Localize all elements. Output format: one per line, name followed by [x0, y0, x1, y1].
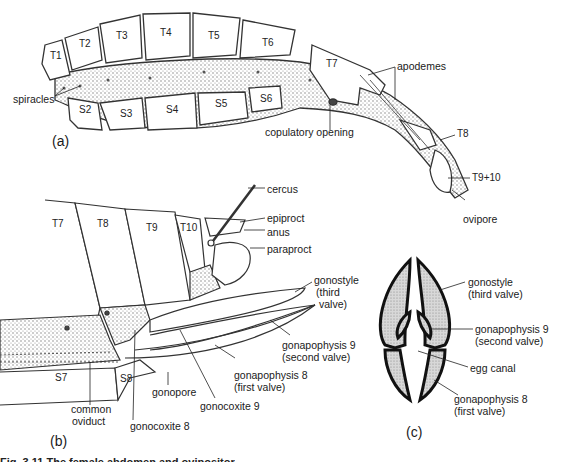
- label-cercus: cercus: [267, 183, 298, 195]
- segment-label-b-S7: S7: [55, 372, 67, 383]
- segment-label-b-T7: T7: [52, 218, 64, 229]
- label-c-gonapophysis8-sub: (first valve): [454, 405, 505, 417]
- label-b-gonapophysis9-sub: (second valve): [282, 351, 350, 363]
- segment-label-b-T8: T8: [97, 218, 109, 229]
- label-c-gonostyle: gonostyle: [468, 276, 513, 288]
- segment-label-T4: T4: [160, 27, 172, 38]
- label-c-gonostyle-sub: (third valve): [468, 288, 523, 300]
- label-spiracles: spiracles: [13, 93, 54, 105]
- segment-label-T2: T2: [79, 38, 91, 49]
- figure-caption: Fig. 3.11 The female abdomen and oviposi…: [0, 452, 235, 462]
- label-common-oviduct-1: common: [71, 403, 111, 415]
- label-c-gonapophysis9-sub: (second valve): [475, 335, 543, 347]
- panel-label-a: (a): [52, 133, 69, 149]
- label-copulatory-opening: copulatory opening: [265, 126, 354, 138]
- segment-label-T3: T3: [116, 30, 128, 41]
- label-b-gonapophysis8-sub: (first valve): [234, 381, 285, 393]
- label-b-gonapophysis9: gonapophysis 9: [282, 339, 356, 351]
- label-b-gonostyle-sub1: (third: [316, 286, 340, 298]
- label-gonocoxite8: gonocoxite 8: [130, 420, 190, 432]
- segment-label-b-T9: T9: [146, 222, 158, 233]
- panel-c-cross-section: [380, 260, 449, 400]
- segment-label-S3: S3: [120, 108, 132, 119]
- segment-label-S2: S2: [79, 104, 91, 115]
- label-b-gonapophysis8: gonapophysis 8: [234, 369, 308, 381]
- panel-a-abdomen: [42, 13, 468, 198]
- segment-label-T5: T5: [208, 30, 220, 41]
- label-epiproct: epiproct: [267, 212, 304, 224]
- segment-label-T8: T8: [457, 128, 469, 139]
- segment-label-T7: T7: [326, 58, 338, 69]
- label-paraproct: paraproct: [267, 243, 311, 255]
- label-ovipore: ovipore: [463, 213, 497, 225]
- segment-label-T6: T6: [262, 37, 274, 48]
- label-common-oviduct-2: oviduct: [72, 415, 105, 427]
- segment-label-b-S8: S8: [120, 373, 132, 384]
- segment-label-T9-10: T9+10: [472, 172, 501, 183]
- label-anus: anus: [267, 226, 290, 238]
- label-c-egg-canal: egg canal: [470, 362, 516, 374]
- label-b-gonostyle: gonostyle: [314, 274, 359, 286]
- panel-label-c: (c): [406, 424, 422, 440]
- label-c-gonapophysis9: gonapophysis 9: [475, 323, 549, 335]
- segment-label-S6: S6: [260, 93, 272, 104]
- label-apodemes: apodemes: [397, 60, 446, 72]
- label-c-gonapophysis8: gonapophysis 8: [454, 393, 528, 405]
- label-b-gonostyle-sub2: valve): [319, 298, 347, 310]
- label-gonopore: gonopore: [152, 386, 196, 398]
- label-gonocoxite9: gonocoxite 9: [200, 400, 260, 412]
- segment-label-S4: S4: [166, 104, 178, 115]
- segment-label-b-T10: T10: [180, 222, 197, 233]
- panel-label-b: (b): [50, 433, 67, 449]
- segment-label-S5: S5: [215, 98, 227, 109]
- segment-label-T1: T1: [50, 50, 62, 61]
